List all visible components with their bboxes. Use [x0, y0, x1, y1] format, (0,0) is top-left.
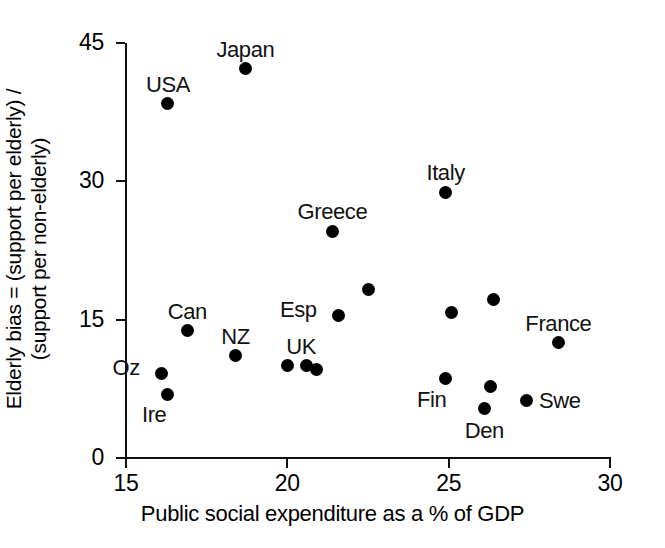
data-point-label: Esp	[280, 299, 317, 321]
x-tick-label: 20	[257, 472, 317, 495]
data-point	[439, 186, 452, 199]
data-point	[310, 363, 323, 376]
x-tick-label: 15	[96, 472, 156, 495]
data-point	[362, 283, 375, 296]
y-tick-mark	[116, 42, 125, 44]
x-tick-mark	[609, 459, 611, 468]
y-axis-title-line2: (support per non-elderly)	[26, 34, 51, 464]
data-point	[520, 394, 533, 407]
data-point-label: Ire	[142, 404, 166, 426]
data-point	[332, 309, 345, 322]
data-point-label: Greece	[298, 201, 368, 223]
data-point	[326, 225, 339, 238]
y-axis-title-line1: Elderly bias = (support per elderly) /	[1, 34, 26, 464]
scatter-chart-figure: 0153045 15202530 Public social expenditu…	[0, 0, 665, 548]
y-axis-title: Elderly bias = (support per elderly) / (…	[1, 34, 51, 464]
data-point-label: UK	[286, 336, 316, 358]
y-tick-label: 15	[58, 308, 104, 331]
y-tick-label: 30	[58, 169, 104, 192]
x-tick-mark	[125, 459, 127, 468]
data-point-label: Japan	[216, 39, 274, 61]
data-point	[478, 402, 491, 415]
data-point-label: Italy	[426, 162, 464, 184]
data-point	[155, 367, 168, 380]
x-tick-mark	[286, 459, 288, 468]
plot-area	[126, 43, 610, 458]
data-point-label: Fin	[417, 389, 446, 411]
y-tick-mark	[116, 457, 125, 459]
data-point-label: Oz	[112, 357, 139, 379]
x-tick-label: 30	[580, 472, 640, 495]
y-tick-mark	[116, 180, 125, 182]
data-point-label: Can	[168, 301, 207, 323]
x-tick-label: 25	[419, 472, 479, 495]
y-tick-mark	[116, 319, 125, 321]
x-axis-title: Public social expenditure as a % of GDP	[0, 502, 665, 526]
y-tick-label: 45	[58, 31, 104, 54]
x-tick-mark	[448, 459, 450, 468]
data-point-label: Swe	[539, 390, 581, 412]
data-point-label: USA	[146, 74, 190, 96]
data-point	[181, 324, 194, 337]
y-tick-label: 0	[58, 446, 104, 469]
data-point-label: NZ	[221, 326, 250, 348]
data-point	[552, 336, 565, 349]
data-point-label: France	[525, 313, 591, 335]
data-point-label: Den	[465, 420, 504, 442]
